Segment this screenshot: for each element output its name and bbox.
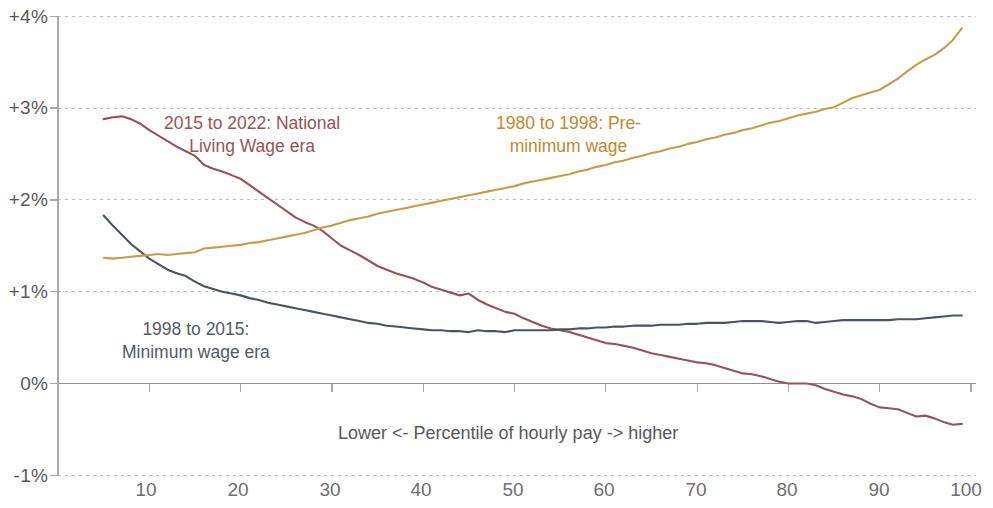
series-label-line-2: minimum wage bbox=[496, 135, 641, 158]
xtick-label-70: 70 bbox=[666, 479, 726, 501]
data-series bbox=[104, 28, 962, 425]
xtick-label-90: 90 bbox=[849, 479, 909, 501]
series-label-line-1: 1980 to 1998: Pre- bbox=[496, 112, 641, 135]
ytick-label-neg1: -1% bbox=[0, 465, 48, 487]
xtick-label-50: 50 bbox=[483, 479, 543, 501]
xtick-label-80: 80 bbox=[757, 479, 817, 501]
series-label-pre-minimum-wage: 1980 to 1998: Pre- minimum wage bbox=[496, 112, 641, 158]
xtick-label-100: 100 bbox=[936, 479, 993, 501]
ytick-label-1: +1% bbox=[0, 281, 48, 303]
series-label-minimum-wage-era: 1998 to 2015: Minimum wage era bbox=[122, 318, 270, 364]
xtick-label-20: 20 bbox=[208, 479, 268, 501]
series-line-0 bbox=[104, 116, 962, 424]
series-label-line-1: 2015 to 2022: National bbox=[164, 112, 340, 135]
series-line-1 bbox=[104, 216, 962, 333]
series-label-national-living-wage: 2015 to 2022: National Living Wage era bbox=[164, 112, 340, 158]
series-label-line-1: 1998 to 2015: bbox=[122, 318, 270, 341]
x-axis-title: Lower <- Percentile of hourly pay -> hig… bbox=[338, 423, 678, 444]
xtick-label-60: 60 bbox=[574, 479, 634, 501]
gridlines bbox=[58, 16, 976, 475]
ytick-label-0: 0% bbox=[0, 373, 48, 395]
ytick-label-2: +2% bbox=[0, 189, 48, 211]
series-label-line-2: Minimum wage era bbox=[122, 341, 270, 364]
ytick-label-4: +4% bbox=[0, 6, 48, 28]
series-label-line-2: Living Wage era bbox=[164, 135, 340, 158]
xtick-label-40: 40 bbox=[391, 479, 451, 501]
chart-container: +4% +3% +2% +1% 0% -1% 10 20 30 40 50 60… bbox=[0, 0, 993, 508]
axes bbox=[50, 16, 976, 475]
xtick-label-10: 10 bbox=[116, 479, 176, 501]
ytick-label-3: +3% bbox=[0, 97, 48, 119]
xtick-label-30: 30 bbox=[300, 479, 360, 501]
